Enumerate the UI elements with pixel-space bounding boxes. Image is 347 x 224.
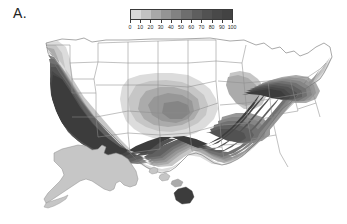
colorbar-swatch-80-90 (212, 10, 222, 19)
colorbar-tick-label-0: 0 (129, 24, 132, 31)
colorbar-tick-label-50: 50 (178, 24, 184, 31)
colorbar-tick-label-40: 40 (168, 24, 174, 31)
colorbar-swatch-30-40 (161, 10, 171, 19)
hawaii-big-island (174, 187, 194, 204)
colorbar-swatch-70-80 (202, 10, 212, 19)
colorbar-tick-label-20: 20 (148, 24, 154, 31)
colorbar-tick-label-60: 60 (188, 24, 194, 31)
colorbar-tick-30 (161, 20, 162, 23)
colorbar-tick-label-90: 90 (219, 24, 225, 31)
colorbar-swatch-60-70 (192, 10, 202, 19)
colorbar-swatch-90-100 (222, 10, 232, 19)
colorbar-tick-labels: 0102030405060708090100 (130, 24, 233, 33)
colorbar-tick-10 (140, 20, 141, 23)
colorbar-gradient (130, 9, 233, 20)
colorbar-tick-0 (130, 20, 131, 23)
hawaii-oahu (159, 173, 170, 181)
hawaii-maui (171, 179, 183, 187)
colorbar-tick-label-80: 80 (209, 24, 215, 31)
figure-panel-a: A. 0102030405060708090100 (0, 0, 347, 224)
colorbar-swatch-20-30 (151, 10, 161, 19)
colorbar-tick-label-10: 10 (137, 24, 143, 31)
colorbar-tick-70 (201, 20, 202, 23)
hawaii-inset (149, 167, 194, 204)
colorbar-tick-40 (171, 20, 172, 23)
colorbar-tick-80 (212, 20, 213, 23)
colorbar-tick-90 (222, 20, 223, 23)
colorbar-swatch-0-10 (131, 10, 141, 19)
colorbar-tick-label-100: 100 (228, 24, 237, 31)
colorbar-tick-100 (232, 20, 233, 23)
colorbar-tick-60 (191, 20, 192, 23)
colorbar-swatch-10-20 (141, 10, 151, 19)
colorbar-tick-20 (150, 20, 151, 23)
us-map-svg (32, 33, 337, 218)
colorbar-tick-50 (181, 20, 182, 23)
colorbar-tick-label-70: 70 (199, 24, 205, 31)
panel-label: A. (13, 6, 27, 20)
map-container (32, 33, 337, 218)
colorbar-tick-label-30: 30 (158, 24, 164, 31)
colorbar-legend: 0102030405060708090100 (130, 9, 233, 33)
colorbar-swatch-50-60 (181, 10, 191, 19)
colorbar-swatch-40-50 (171, 10, 181, 19)
